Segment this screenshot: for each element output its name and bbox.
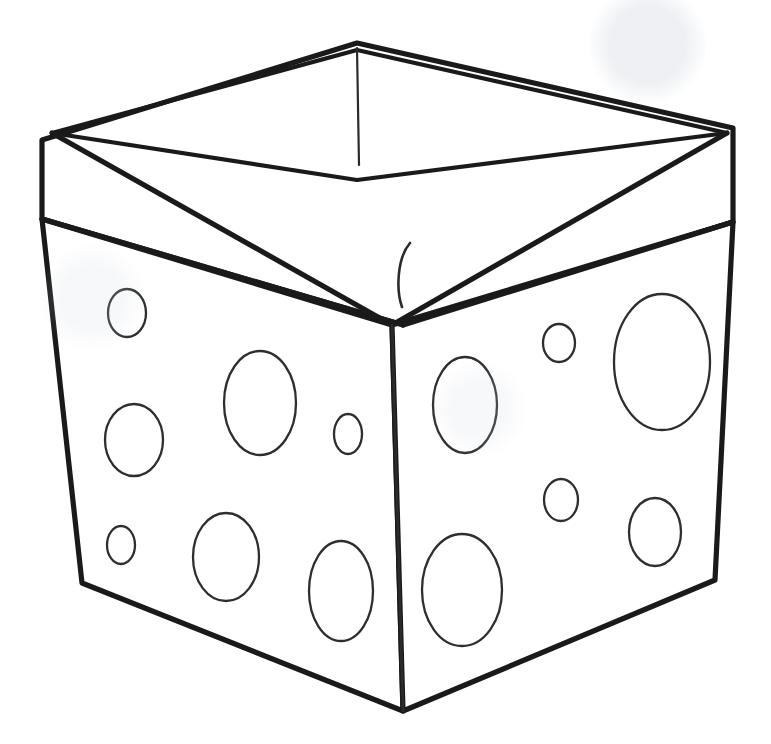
- polka-dot-right-2: [543, 324, 575, 362]
- polka-dot-left-7: [309, 541, 373, 641]
- polka-dot-right-6: [629, 498, 681, 566]
- polka-dot-right-4: [544, 479, 578, 521]
- polka-dot-left-2: [105, 404, 163, 476]
- coloring-page-canvas: [0, 0, 771, 744]
- polka-dot-right-1: [433, 357, 497, 453]
- polka-dot-left-3: [224, 351, 296, 455]
- box-line-drawing: [0, 0, 771, 744]
- polka-dot-left-5: [107, 526, 135, 564]
- polka-dot-left-1: [108, 289, 146, 337]
- polka-dot-right-5: [422, 534, 502, 646]
- polka-dot-left-4: [334, 414, 362, 454]
- polka-dot-right-3: [614, 294, 710, 430]
- polka-dot-left-6: [193, 513, 259, 601]
